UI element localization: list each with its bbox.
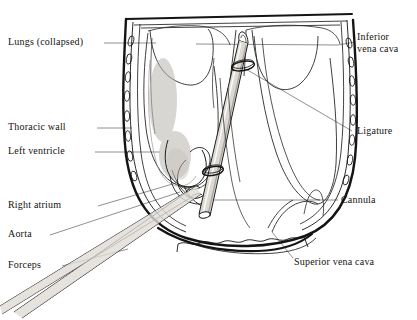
rib-oval (350, 115, 355, 126)
label-cannula: Cannula (341, 194, 376, 206)
right-lung-top-fold (246, 25, 340, 44)
lung-shade (149, 58, 177, 142)
rib-oval (349, 135, 355, 146)
label-thoracic-wall: Thoracic wall (8, 121, 66, 133)
thoracic-wall-inner-right-2 (300, 22, 344, 224)
figure-canvas: Lungs (collapsed) Thoracic wall Left ven… (0, 0, 417, 320)
thoracic-wall-top-inner (134, 21, 347, 25)
thoracic-wall-top-edge (126, 14, 352, 19)
rib-oval (126, 53, 133, 64)
rib-oval (350, 95, 356, 106)
rib-oval (124, 111, 129, 122)
mediastinum-line-3 (213, 58, 215, 108)
label-inferior-vena-cava-line1: Inferior (357, 31, 389, 43)
label-left-ventricle: Left ventricle (8, 145, 65, 157)
label-superior-vena-cava: Superior vena cava (294, 256, 374, 268)
right-lung-body (254, 36, 337, 204)
superior-vena-cava (272, 201, 318, 232)
rib-oval (342, 174, 350, 185)
leader-lines (50, 42, 355, 266)
right-lung-collapsed (246, 25, 340, 216)
thoracic-cavity-illustration (0, 0, 417, 320)
cannula-highlight (203, 43, 241, 214)
superior-vena-cava-2 (268, 200, 293, 228)
diaphragm-tick-left (177, 244, 178, 252)
label-aorta: Aorta (8, 228, 32, 240)
right-lung-inner-fold (262, 38, 320, 200)
label-inferior-vena-cava-line2: vena cava (357, 43, 399, 55)
left-lung-top-fold (148, 26, 230, 45)
rib-oval (125, 131, 131, 142)
label-ligature: Ligature (357, 125, 392, 137)
rib-oval (127, 35, 135, 46)
label-lungs-collapsed: Lungs (collapsed) (8, 36, 83, 48)
rib-oval (348, 56, 355, 67)
leader-inferior-vena-cava-2 (196, 44, 338, 45)
rib-oval (124, 91, 130, 102)
cannula (198, 32, 248, 219)
label-right-atrium: Right atrium (8, 199, 61, 211)
aorta-arch (190, 148, 210, 175)
label-forceps: Forceps (8, 259, 41, 271)
